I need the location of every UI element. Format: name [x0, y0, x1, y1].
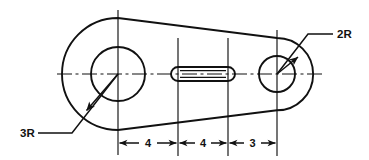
radius-label-2r: 2R	[337, 28, 353, 40]
dimension-segment-1: 4	[120, 137, 177, 149]
dimension-segment-2: 4	[180, 137, 227, 149]
leader-line-3r	[38, 74, 118, 133]
radius-callout-left: 3R	[20, 74, 118, 139]
cad-vector-surface: 3R 2R 4 4 3	[0, 0, 369, 160]
dimension-value-1: 4	[145, 137, 152, 149]
dimension-value-2: 4	[200, 137, 207, 149]
radius-label-3r: 3R	[20, 127, 36, 139]
centerlines-group	[57, 10, 322, 156]
engineering-drawing-canvas: 3R 2R 4 4 3	[0, 0, 369, 160]
dimension-value-3: 3	[249, 137, 255, 149]
dimension-group: 4 4 3	[120, 137, 276, 149]
dimension-segment-3: 3	[230, 137, 276, 149]
radius-callout-right: 2R	[277, 28, 353, 74]
